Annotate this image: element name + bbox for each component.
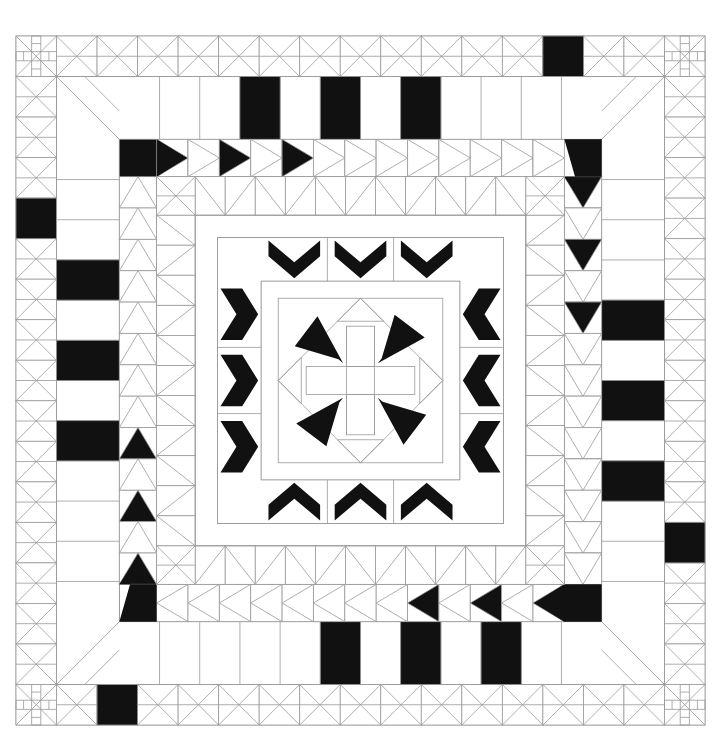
dark-bar-top xyxy=(401,77,441,140)
dark-bar-right xyxy=(602,461,665,501)
dark-bar-left xyxy=(57,340,120,380)
dark-bar-top xyxy=(240,77,280,140)
quilt-canvas xyxy=(0,0,721,755)
dark-square-top xyxy=(543,36,584,77)
dark-square-bottom xyxy=(97,684,138,725)
dark-bar-bottom xyxy=(401,622,441,685)
dark-bar-right xyxy=(602,381,665,421)
dark-bar-right xyxy=(602,300,665,340)
dark-bar-left xyxy=(57,421,120,461)
quilt-layers xyxy=(16,36,705,725)
dark-square-right xyxy=(664,522,705,563)
quilt-diagram xyxy=(0,0,721,755)
dark-bar-bottom xyxy=(481,622,521,685)
dark-bar-top xyxy=(320,77,360,140)
corner-square-topleft xyxy=(119,139,156,176)
dark-bar-left xyxy=(57,260,120,300)
cross-horizontal-bar xyxy=(306,367,415,395)
dark-bar-bottom xyxy=(320,622,360,685)
dark-square-left xyxy=(16,198,57,239)
